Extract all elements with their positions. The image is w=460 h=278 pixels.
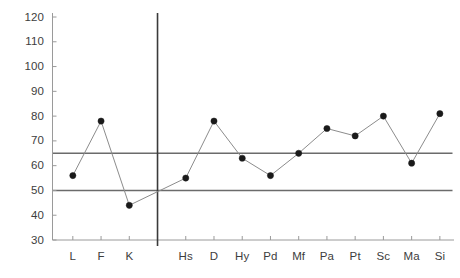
y-axis-label-120: 120 <box>14 11 44 23</box>
series-polyline <box>73 114 440 206</box>
x-axis-label-Si: Si <box>423 250 457 262</box>
data-point-D <box>211 118 217 124</box>
data-point-Sc <box>380 113 386 119</box>
data-point-Hs <box>183 175 189 181</box>
chart-container: 12011010090807060504030 LFKHsDHyPdMfPaPt… <box>0 0 460 278</box>
chart-plot-area <box>0 0 460 278</box>
y-axis-label-110: 110 <box>14 35 44 47</box>
reference-lines-group <box>53 153 453 190</box>
y-axis-label-100: 100 <box>14 60 44 72</box>
data-point-F <box>98 118 104 124</box>
data-point-Si <box>437 111 443 117</box>
y-axis-label-60: 60 <box>14 159 44 171</box>
data-point-L <box>70 172 76 178</box>
x-axis-label-K: K <box>112 250 146 262</box>
data-point-K <box>126 202 132 208</box>
data-point-Hy <box>239 155 245 161</box>
axes-group <box>53 13 455 240</box>
data-point-Mf <box>296 150 302 156</box>
y-axis-label-70: 70 <box>14 134 44 146</box>
data-point-Pt <box>352 133 358 139</box>
tick-marks-group <box>53 17 440 240</box>
data-point-Pa <box>324 125 330 131</box>
y-axis-label-80: 80 <box>14 110 44 122</box>
y-axis-label-50: 50 <box>14 184 44 196</box>
y-axis-label-40: 40 <box>14 209 44 221</box>
data-point-Ma <box>409 160 415 166</box>
y-axis-label-90: 90 <box>14 85 44 97</box>
data-series-line <box>73 114 440 206</box>
data-point-Pd <box>267 172 273 178</box>
y-axis-label-30: 30 <box>14 234 44 246</box>
